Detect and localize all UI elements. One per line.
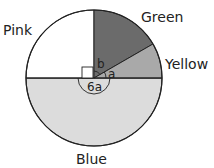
- label-yellow: Yellow: [164, 56, 208, 72]
- pie-diagram: b a 6a Pink Green Yellow Blue: [0, 0, 214, 168]
- label-blue: Blue: [76, 151, 107, 167]
- right-angle-marker: [82, 67, 93, 78]
- angle-label-b: b: [97, 57, 105, 71]
- label-green: Green: [141, 9, 183, 25]
- label-pink: Pink: [3, 22, 33, 38]
- angle-label-6a: 6a: [87, 80, 102, 94]
- angle-label-a: a: [108, 67, 115, 81]
